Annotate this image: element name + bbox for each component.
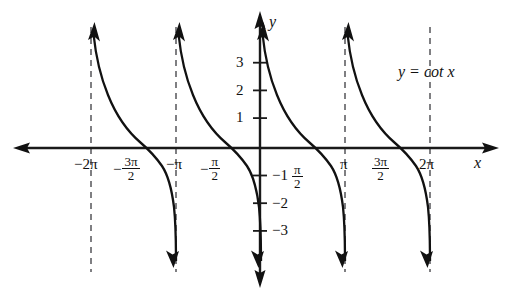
fraction-denominator: 2 — [122, 169, 139, 182]
y-tick-label-1: 1 — [236, 110, 244, 125]
minus-sign: − — [113, 162, 121, 177]
y-tick-label-neg1: −1 — [272, 168, 288, 183]
x-tick-label-neg-2pi: −2π — [74, 157, 98, 172]
x-tick-label-3pi-over-2: 3π 2 — [372, 156, 389, 184]
fraction-numerator: 3π — [122, 155, 139, 169]
y-tick-label-2: 2 — [236, 83, 244, 98]
x-tick-label-pi-over-2: π 2 — [292, 164, 303, 192]
fraction: π 2 — [209, 155, 220, 183]
x-tick-label-pi: π — [340, 157, 348, 172]
y-tick-label-neg2: −2 — [272, 196, 288, 211]
x-axis-label: x — [474, 155, 481, 171]
fraction: π 2 — [292, 163, 303, 191]
x-tick-label-neg-3pi-over-2: − 3π 2 — [113, 156, 140, 184]
fraction-numerator: π — [209, 155, 220, 169]
plot-canvas — [0, 0, 521, 295]
fraction-numerator: 3π — [372, 155, 389, 169]
fraction-numerator: π — [292, 163, 303, 177]
fraction: 3π 2 — [372, 155, 389, 183]
y-tick-label-3: 3 — [236, 55, 244, 70]
x-axis — [13, 143, 499, 154]
fraction-denominator: 2 — [372, 169, 389, 182]
x-tick-label-neg-pi: −π — [166, 157, 182, 172]
y-tick-label-neg3: −3 — [272, 223, 288, 238]
x-tick-label-2pi: 2π — [419, 157, 434, 172]
x-tick-label-neg-pi-over-2: − π 2 — [200, 156, 220, 184]
y-axis-label: y — [269, 14, 276, 30]
minus-sign: − — [200, 162, 208, 177]
fraction-denominator: 2 — [292, 177, 303, 190]
cotangent-graph-figure: y x y = cot x 3 2 1 −1 −2 −3 −2π − 3π 2 … — [0, 0, 521, 295]
fraction: 3π 2 — [122, 155, 139, 183]
fraction-denominator: 2 — [209, 169, 220, 182]
equation-annotation: y = cot x — [398, 64, 455, 80]
